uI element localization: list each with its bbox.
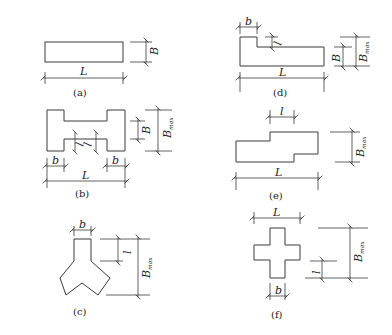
length-label: L: [274, 166, 282, 179]
length-label: L: [278, 66, 286, 79]
caption-c: (c): [73, 306, 87, 317]
length-label: L: [79, 65, 87, 78]
figure-b: l l B Bmax b b L (b): [45, 108, 174, 199]
stepped-shape: [236, 132, 318, 162]
max-width-label: Bmax: [354, 136, 367, 158]
max-width-label: Bmax: [161, 117, 174, 139]
figure-d: b l B Bmax L (d): [238, 15, 370, 98]
flange-label-left: b: [52, 154, 59, 167]
max-width-label: Bmax: [357, 41, 370, 63]
max-width-label: Bmax: [352, 241, 365, 263]
rectangle-shape: [45, 42, 123, 62]
caption-d: (d): [273, 87, 287, 98]
l-shape: [240, 37, 324, 66]
width-label: b: [79, 218, 86, 231]
flange-label-right: b: [112, 154, 119, 167]
figure-e: l Bmax L (e): [234, 105, 367, 201]
step-label: l: [280, 105, 284, 118]
caption-b: (b): [75, 188, 89, 199]
y-shape: [60, 239, 110, 295]
length-label: L: [272, 206, 280, 219]
flange-label: b: [245, 15, 252, 28]
figure-c: b l Bmax (c): [60, 218, 153, 317]
caption-a: (a): [73, 87, 87, 98]
foundation-shapes-diagram: B L (a) l l B Bmax b b L: [0, 0, 392, 335]
step-label: l: [310, 270, 323, 274]
caption-e: (e): [269, 190, 283, 201]
caption-f: (f): [271, 309, 283, 320]
cross-shape: [254, 228, 300, 278]
width-label: B: [140, 126, 153, 135]
step-label: l: [271, 40, 285, 47]
step-label: l: [121, 250, 134, 254]
length-label: L: [81, 169, 89, 182]
width-label: B: [330, 54, 343, 63]
figure-a: B L (a): [43, 40, 161, 98]
width-label: B: [148, 47, 161, 56]
figure-f: L b l Bmax (f): [252, 206, 368, 320]
width-label: b: [275, 284, 282, 297]
max-width-label: Bmax: [140, 257, 153, 279]
